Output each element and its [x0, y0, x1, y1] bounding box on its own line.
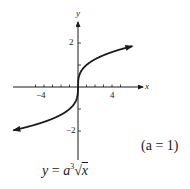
formula-equals: = [48, 163, 63, 178]
cube-root-graph [0, 0, 190, 189]
y-axis-label: y [76, 8, 80, 18]
x-tick-label-4: 4 [110, 90, 115, 100]
y-tick-label-neg2: −2 [66, 125, 76, 135]
x-axis-label: x [145, 81, 149, 91]
radical-sign: √ [74, 163, 82, 178]
formula-x: x [82, 163, 88, 178]
y-tick-label-2: 2 [69, 37, 74, 47]
function-curve [13, 46, 132, 130]
x-tick-label-neg4: −4 [36, 90, 46, 100]
formula-label: y = a3√x [42, 162, 88, 179]
parameter-label: (a = 1) [141, 138, 178, 154]
